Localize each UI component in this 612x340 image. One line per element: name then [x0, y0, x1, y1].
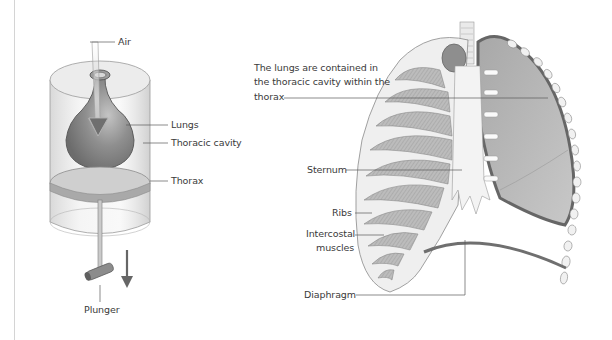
label-intercostal-line-2: muscles: [316, 242, 354, 254]
label-thoracic-cavity: Thoracic cavity: [171, 137, 242, 149]
caption-line-1: The lungs are contained in: [254, 62, 378, 74]
label-intercostal-line-1: Intercostal: [306, 228, 355, 240]
label-diaphragm: Diaphragm: [304, 289, 356, 301]
label-thorax: Thorax: [171, 175, 203, 187]
label-plunger: Plunger: [84, 304, 120, 316]
label-air: Air: [118, 36, 131, 48]
caption-line-3: thorax: [254, 91, 284, 103]
lung-exposed: [478, 36, 574, 225]
plunger-rod: [98, 200, 102, 268]
caption-line-2: the thoracic cavity within the: [254, 76, 390, 88]
diaphragm: [424, 243, 566, 268]
label-ribs: Ribs: [332, 207, 352, 219]
label-sternum: Sternum: [307, 164, 347, 176]
label-lungs: Lungs: [171, 119, 199, 131]
bell-jar-model: [50, 42, 168, 302]
